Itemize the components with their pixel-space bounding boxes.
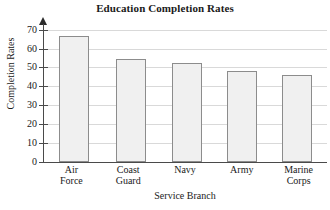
- y-axis-tick-label: 70: [17, 25, 37, 35]
- y-axis-tick: [39, 143, 48, 144]
- y-axis-tick: [39, 162, 48, 163]
- y-axis-tick-label: 10: [17, 138, 37, 148]
- y-axis-tick-label-wrap: 30: [13, 100, 37, 110]
- x-axis-tick-label-line: Corps: [270, 175, 327, 186]
- bar: [282, 75, 312, 162]
- y-axis-tick-label-wrap: 10: [13, 138, 37, 148]
- y-axis-tick: [39, 86, 48, 87]
- x-axis-tick-label-line: Guard: [100, 175, 157, 186]
- y-axis-tick-label-wrap: 70: [13, 25, 37, 35]
- x-axis-line: [43, 162, 327, 163]
- x-axis-title: Service Branch: [43, 190, 327, 201]
- bar: [59, 36, 89, 162]
- y-axis-tick-label: 30: [17, 100, 37, 110]
- y-axis-tick: [39, 105, 48, 106]
- y-axis-tick: [39, 124, 48, 125]
- y-axis-tick-label-wrap: 20: [13, 119, 37, 129]
- y-axis-tick-label-wrap: 60: [13, 44, 37, 54]
- x-axis-tick-label: Army: [213, 164, 270, 175]
- y-axis-tick: [39, 49, 48, 50]
- y-axis-tick-label: 20: [17, 119, 37, 129]
- bar: [116, 59, 146, 162]
- chart-title: Education Completion Rates: [0, 2, 330, 14]
- x-axis-tick-label: AirForce: [43, 164, 100, 186]
- x-axis-tick-label-line: Marine: [270, 164, 327, 175]
- bar: [227, 71, 257, 162]
- bar: [172, 63, 202, 162]
- y-axis-tick-label-wrap: 50: [13, 62, 37, 72]
- x-axis-tick-label-line: Navy: [157, 164, 214, 175]
- y-axis-tick-label: 60: [17, 44, 37, 54]
- y-axis-tick-label-wrap: 0: [13, 157, 37, 167]
- x-axis-tick-label-line: Air: [43, 164, 100, 175]
- gridline: [43, 30, 327, 31]
- y-axis-tick: [39, 67, 48, 68]
- y-axis-tick-label: 0: [17, 157, 37, 167]
- x-axis-tick-label: Navy: [157, 164, 214, 175]
- x-axis-tick-label-line: Coast: [100, 164, 157, 175]
- y-axis-tick: [39, 30, 48, 31]
- y-axis-tick-label: 40: [17, 81, 37, 91]
- x-axis-tick-label: CoastGuard: [100, 164, 157, 186]
- y-axis-tick-label: 50: [17, 62, 37, 72]
- x-axis-tick-label-line: Force: [43, 175, 100, 186]
- x-axis-tick-label-line: Army: [213, 164, 270, 175]
- x-axis-tick-label: MarineCorps: [270, 164, 327, 186]
- bar-chart-figure: Education Completion Rates Completion Ra…: [0, 0, 330, 210]
- y-axis-tick-label-wrap: 40: [13, 81, 37, 91]
